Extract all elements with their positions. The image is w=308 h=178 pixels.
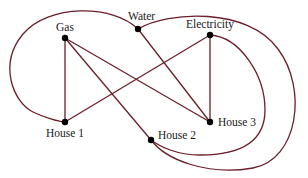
node-house3	[207, 119, 213, 125]
node-electricity	[207, 32, 213, 38]
label-water: Water	[128, 10, 155, 22]
label-house-3: House 3	[218, 116, 256, 128]
edge-water-house3	[138, 29, 210, 122]
label-house-2: House 2	[158, 129, 196, 141]
label-gas: Gas	[56, 21, 74, 33]
edge-water-house1	[10, 11, 138, 122]
nodes-group	[62, 26, 213, 143]
label-electricity: Electricity	[186, 18, 234, 31]
utilities-graph-diagram: Gas Water Electricity House 1 House 2 Ho…	[0, 0, 308, 178]
edges-group	[10, 11, 295, 170]
edge-gas-house2	[65, 38, 151, 140]
node-house2	[148, 137, 154, 143]
node-gas	[62, 35, 68, 41]
label-house-1: House 1	[46, 127, 84, 139]
node-house1	[62, 119, 68, 125]
labels-group: Gas Water Electricity House 1 House 2 Ho…	[46, 10, 256, 141]
node-water	[135, 26, 141, 32]
